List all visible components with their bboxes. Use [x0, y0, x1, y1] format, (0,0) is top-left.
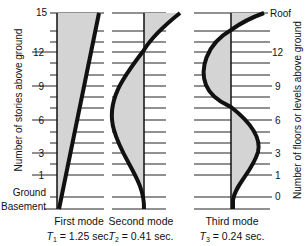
svg-text:0: 0	[275, 191, 281, 202]
svg-text:T1 = 1.25 sec.: T1 = 1.25 sec.	[47, 230, 112, 243]
svg-text:9: 9	[275, 81, 281, 92]
svg-text:T3 = 0.24 sec.: T3 = 0.24 sec.	[200, 230, 265, 243]
svg-text:3: 3	[275, 148, 281, 159]
svg-text:Roof: Roof	[270, 8, 291, 19]
svg-text:T2 = 0.41 sec.: T2 = 0.41 sec.	[109, 230, 174, 243]
right-axis-title: Number of floors or levels above ground	[292, 21, 303, 199]
svg-text:Ground: Ground	[13, 187, 46, 198]
svg-text:12: 12	[33, 47, 45, 58]
left-axis-title: Number of stories above ground	[13, 29, 24, 172]
mode-shapes-diagram: 15 12 9 6 3 1 Ground Basement Roof 12 9 …	[0, 0, 306, 246]
svg-text:6: 6	[38, 115, 44, 126]
svg-text:Second mode: Second mode	[109, 215, 174, 227]
svg-text:1: 1	[38, 170, 44, 181]
right-tick-labels: Roof 12 9 6 3 1 0	[270, 8, 291, 202]
svg-text:1: 1	[275, 170, 281, 181]
svg-text:9: 9	[38, 81, 44, 92]
svg-text:First mode: First mode	[54, 215, 104, 227]
svg-text:Third mode: Third mode	[205, 215, 258, 227]
mode-captions: First mode T1 = 1.25 sec. Second mode T2…	[47, 215, 265, 243]
svg-text:3: 3	[38, 148, 44, 159]
svg-text:15: 15	[36, 7, 48, 18]
svg-text:12: 12	[272, 47, 284, 58]
left-tick-labels: 15 12 9 6 3 1 Ground Basement	[1, 7, 47, 212]
svg-text:6: 6	[275, 115, 281, 126]
svg-text:Basement: Basement	[1, 201, 46, 212]
first-mode-shape	[57, 13, 99, 209]
